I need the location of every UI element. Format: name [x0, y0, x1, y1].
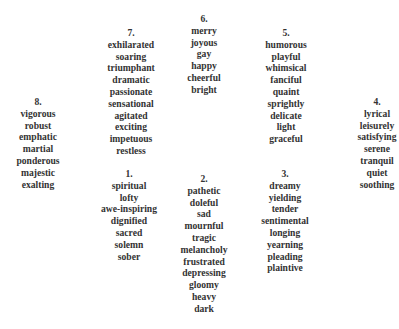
cluster-word: ponderous — [16, 155, 59, 167]
cluster-word: lofty — [101, 192, 157, 204]
cluster-3: 3. dreamy yielding tender sentimental lo… — [261, 168, 308, 274]
cluster-6: 6. merry joyous gay happy cheerful brigh… — [187, 13, 221, 96]
cluster-word: exalting — [16, 179, 59, 191]
cluster-word: light — [265, 121, 306, 133]
cluster-word: doleful — [181, 197, 228, 209]
cluster-word: heavy — [181, 291, 228, 303]
cluster-word: tragic — [181, 232, 228, 244]
cluster-word: exciting — [107, 121, 154, 133]
cluster-number: 1. — [101, 168, 157, 180]
cluster-word: impetuous — [107, 133, 154, 145]
cluster-word: mournful — [181, 220, 228, 232]
cluster-word: serene — [358, 143, 397, 155]
cluster-word: sober — [101, 251, 157, 263]
cluster-word: dark — [181, 303, 228, 315]
cluster-word: quaint — [265, 86, 306, 98]
cluster-word: bright — [187, 84, 221, 96]
cluster-word: dignified — [101, 215, 157, 227]
cluster-word: robust — [16, 120, 59, 132]
cluster-word: plaintive — [261, 262, 308, 274]
cluster-word: frustrated — [181, 256, 228, 268]
cluster-word: martial — [16, 143, 59, 155]
cluster-word: vigorous — [16, 108, 59, 120]
cluster-number: 8. — [16, 96, 59, 108]
cluster-word: triumphant — [107, 62, 154, 74]
cluster-word: dreamy — [261, 180, 308, 192]
cluster-word: soothing — [358, 179, 397, 191]
cluster-word: joyous — [187, 37, 221, 49]
cluster-word: sacred — [101, 227, 157, 239]
cluster-word: lyrical — [358, 108, 397, 120]
cluster-word: fanciful — [265, 74, 306, 86]
cluster-word: emphatic — [16, 131, 59, 143]
cluster-word: whimsical — [265, 62, 306, 74]
cluster-number: 3. — [261, 168, 308, 180]
cluster-word: solemn — [101, 239, 157, 251]
cluster-8: 8. vigorous robust emphatic martial pond… — [16, 96, 59, 190]
cluster-word: passionate — [107, 86, 154, 98]
cluster-number: 7. — [107, 27, 154, 39]
cluster-word: melancholy — [181, 244, 228, 256]
cluster-word: spiritual — [101, 180, 157, 192]
cluster-word: satisfying — [358, 131, 397, 143]
cluster-1: 1. spiritual lofty awe-inspiring dignifi… — [101, 168, 157, 262]
cluster-word: longing — [261, 227, 308, 239]
cluster-word: restless — [107, 145, 154, 157]
cluster-word: awe-inspiring — [101, 203, 157, 215]
cluster-word: cheerful — [187, 72, 221, 84]
cluster-number: 4. — [358, 96, 397, 108]
cluster-word: gloomy — [181, 279, 228, 291]
cluster-word: humorous — [265, 39, 306, 51]
cluster-word: gay — [187, 48, 221, 60]
cluster-word: pathetic — [181, 185, 228, 197]
cluster-word: tender — [261, 203, 308, 215]
cluster-word: merry — [187, 25, 221, 37]
cluster-word: happy — [187, 60, 221, 72]
cluster-word: agitated — [107, 110, 154, 122]
cluster-2: 2. pathetic doleful sad mournful tragic … — [181, 173, 228, 315]
cluster-word: exhilarated — [107, 39, 154, 51]
cluster-word: graceful — [265, 133, 306, 145]
cluster-word: leisurely — [358, 120, 397, 132]
cluster-number: 6. — [187, 13, 221, 25]
cluster-word: delicate — [265, 110, 306, 122]
cluster-word: soaring — [107, 51, 154, 63]
cluster-number: 5. — [265, 27, 306, 39]
cluster-word: tranquil — [358, 155, 397, 167]
cluster-7: 7. exhilarated soaring triumphant dramat… — [107, 27, 154, 157]
cluster-word: sentimental — [261, 215, 308, 227]
cluster-word: yielding — [261, 192, 308, 204]
cluster-4: 4. lyrical leisurely satisfying serene t… — [358, 96, 397, 190]
cluster-word: playful — [265, 51, 306, 63]
cluster-word: sad — [181, 208, 228, 220]
cluster-5: 5. humorous playful whimsical fanciful q… — [265, 27, 306, 145]
cluster-word: depressing — [181, 267, 228, 279]
cluster-word: sensational — [107, 98, 154, 110]
cluster-word: majestic — [16, 167, 59, 179]
cluster-number: 2. — [181, 173, 228, 185]
cluster-word: yearning — [261, 239, 308, 251]
cluster-word: quiet — [358, 167, 397, 179]
cluster-word: sprightly — [265, 98, 306, 110]
cluster-word: pleading — [261, 251, 308, 263]
cluster-word: dramatic — [107, 74, 154, 86]
